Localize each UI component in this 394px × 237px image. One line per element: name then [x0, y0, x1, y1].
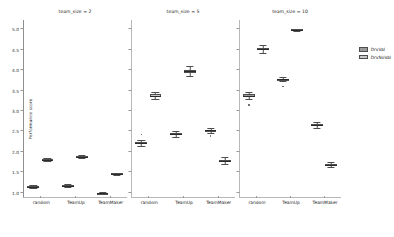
- cap-upper: [152, 92, 159, 93]
- legend-item[interactable]: DrvVal: [359, 47, 391, 52]
- y-tick: 5.0: [20, 28, 23, 29]
- y-tick: 1.0: [20, 192, 23, 193]
- y-tick: [128, 49, 131, 50]
- y-tick: 3.5: [20, 90, 23, 91]
- x-tick-label: random: [141, 200, 158, 205]
- box-plot: [257, 20, 269, 198]
- box-plot: [170, 20, 182, 198]
- median-line: [277, 79, 289, 80]
- x-tick-label: TeamUp: [67, 200, 85, 205]
- y-tick: [128, 192, 131, 193]
- box-plot: [27, 20, 39, 198]
- outlier-point: [282, 86, 283, 87]
- y-tick-label: 4.0: [12, 68, 19, 73]
- x-tick-label: TeamMaker: [206, 200, 231, 205]
- cap-lower: [279, 81, 286, 82]
- y-tick: [236, 49, 239, 50]
- plot-area: 1.01.52.02.53.03.54.04.55.0randomTeamUpT…: [23, 20, 127, 198]
- y-tick: [128, 151, 131, 152]
- median-line: [27, 187, 39, 188]
- cap-lower: [313, 128, 320, 129]
- cap-lower: [259, 53, 266, 54]
- box-plot: [311, 20, 323, 198]
- median-line: [111, 174, 123, 175]
- x-tick-label: TeamMaker: [98, 200, 123, 205]
- median-line: [184, 71, 196, 72]
- outlier-point: [141, 134, 142, 135]
- box-plot: [219, 20, 231, 198]
- cap-lower: [207, 133, 214, 134]
- plot-area: randomTeamUpTeamMaker: [239, 20, 341, 198]
- box-plot: [205, 20, 217, 198]
- box-plot: [291, 20, 303, 198]
- cap-upper: [186, 66, 193, 67]
- y-tick: [128, 171, 131, 172]
- legend-item[interactable]: DrvNoVal: [359, 55, 391, 60]
- median-line: [150, 96, 162, 97]
- legend-label: DrvNoVal: [371, 55, 391, 60]
- outlier-point: [210, 136, 211, 137]
- y-tick-label: 1.0: [12, 190, 19, 195]
- facet-panel: team_size = 5randomTeamUpTeamMaker: [131, 20, 235, 198]
- y-tick: [236, 151, 239, 152]
- box-plot: [277, 20, 289, 198]
- y-tick-label: 1.5: [12, 170, 19, 175]
- x-tick-label: random: [33, 200, 50, 205]
- cap-lower: [44, 161, 51, 162]
- y-tick: 4.0: [20, 69, 23, 70]
- cap-upper: [259, 45, 266, 46]
- box-plot: [42, 20, 54, 198]
- box-plot: [111, 20, 123, 198]
- y-tick: [128, 69, 131, 70]
- y-tick-label: 2.5: [12, 129, 19, 134]
- median-line: [76, 157, 88, 158]
- y-tick: 3.0: [20, 110, 23, 111]
- box-plot: [135, 20, 147, 198]
- facet-panel: team_size = 21.01.52.02.53.03.54.04.55.0…: [23, 20, 127, 198]
- median-line: [311, 125, 323, 126]
- boxplot-figure: Performance score team_size = 21.01.52.0…: [0, 0, 394, 237]
- cap-lower: [172, 137, 179, 138]
- y-tick: [236, 28, 239, 29]
- cap-lower: [186, 76, 193, 77]
- box-plot: [97, 20, 109, 198]
- y-tick: [128, 130, 131, 131]
- legend-swatch: [359, 47, 368, 51]
- y-tick: [236, 69, 239, 70]
- median-line: [205, 130, 217, 131]
- median-line: [219, 161, 231, 162]
- box-plot: [76, 20, 88, 198]
- y-tick-label: 5.0: [12, 27, 19, 32]
- cap-lower: [245, 99, 252, 100]
- box-plot: [150, 20, 162, 198]
- x-tick-label: TeamMaker: [313, 200, 338, 205]
- facet-panel: team_size = 10randomTeamUpTeamMaker: [239, 20, 341, 198]
- x-tick-label: TeamUp: [282, 200, 300, 205]
- x-tick-label: TeamUp: [175, 200, 193, 205]
- cap-upper: [245, 92, 252, 93]
- median-line: [62, 186, 74, 187]
- y-tick: 1.5: [20, 171, 23, 172]
- box-plot: [243, 20, 255, 198]
- cap-lower: [138, 146, 145, 147]
- y-tick-label: 3.0: [12, 109, 19, 114]
- y-tick: [128, 90, 131, 91]
- box-plot: [325, 20, 337, 198]
- cap-lower: [293, 31, 300, 32]
- cap-lower: [152, 99, 159, 100]
- y-tick: 2.0: [20, 151, 23, 152]
- median-line: [97, 193, 109, 194]
- y-tick-label: 4.5: [12, 47, 19, 52]
- y-tick: 2.5: [20, 130, 23, 131]
- median-line: [135, 143, 147, 144]
- box-plot: [184, 20, 196, 198]
- median-line: [291, 30, 303, 31]
- y-tick: [128, 28, 131, 29]
- panel-title: team_size = 2: [23, 9, 127, 14]
- median-line: [257, 49, 269, 50]
- y-tick-label: 2.0: [12, 149, 19, 154]
- cap-lower: [78, 158, 85, 159]
- median-line: [42, 160, 54, 161]
- y-tick: [236, 171, 239, 172]
- y-tick: [236, 90, 239, 91]
